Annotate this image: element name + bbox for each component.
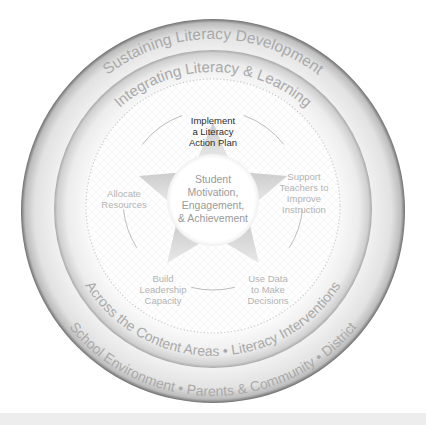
label-line: to Make bbox=[251, 284, 285, 295]
center-line: Engagement, bbox=[182, 199, 244, 211]
label-line: Build bbox=[152, 273, 173, 284]
label-line: Capacity bbox=[145, 295, 182, 306]
label-line: Leadership bbox=[139, 284, 186, 295]
star-label-implement: Implement a Literacy Action Plan bbox=[189, 115, 237, 148]
literacy-framework-diagram: Sustaining Literacy Development Integrat… bbox=[0, 0, 426, 425]
label-line: Allocate bbox=[107, 188, 141, 199]
label-line: Instruction bbox=[282, 204, 326, 215]
center-line: Motivation, bbox=[188, 186, 239, 198]
label-line: Use Data bbox=[248, 273, 288, 284]
center-line: Student bbox=[195, 173, 231, 185]
label-line: Action Plan bbox=[189, 137, 237, 148]
label-line: Support bbox=[287, 171, 321, 182]
star-label-use-data: Use Data to Make Decisions bbox=[247, 273, 288, 306]
label-line: Implement bbox=[191, 115, 236, 126]
label-line: Teachers to bbox=[279, 182, 328, 193]
label-line: Improve bbox=[287, 193, 321, 204]
label-line: Resources bbox=[101, 199, 147, 210]
center-line: & Achievement bbox=[178, 212, 248, 224]
label-line: a Literacy bbox=[192, 126, 233, 137]
star-label-allocate: Allocate Resources bbox=[101, 188, 147, 210]
label-line: Decisions bbox=[247, 295, 288, 306]
bottom-strip bbox=[0, 413, 426, 425]
